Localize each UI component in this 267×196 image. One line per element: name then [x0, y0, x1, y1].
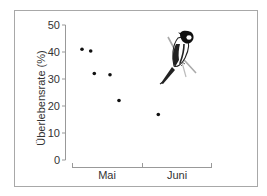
- y-tick-label-40: 40: [48, 46, 60, 58]
- x-label-mai: Mai: [98, 169, 116, 181]
- y-ticks: [62, 25, 66, 160]
- scatter-chart: 50 40 30 20 10 0 Überlebensrate (%) Mai …: [0, 0, 267, 196]
- data-point: [89, 49, 93, 53]
- data-point: [93, 72, 97, 76]
- y-tick-label-0: 0: [54, 154, 60, 166]
- y-tick-label-50: 50: [48, 19, 60, 31]
- data-point: [157, 113, 161, 117]
- y-tick-label-30: 30: [48, 73, 60, 85]
- y-tick-label-20: 20: [48, 100, 60, 112]
- data-points: [80, 48, 160, 117]
- x-label-juni: Juni: [167, 169, 187, 181]
- bird-illustration-icon: [160, 31, 196, 84]
- data-point: [80, 48, 84, 52]
- y-tick-label-10: 10: [48, 127, 60, 139]
- data-point: [117, 99, 121, 103]
- y-axis-title: Überlebensrate (%): [35, 50, 47, 145]
- y-tick-labels: 50 40 30 20 10 0: [48, 19, 60, 166]
- data-point: [108, 73, 112, 77]
